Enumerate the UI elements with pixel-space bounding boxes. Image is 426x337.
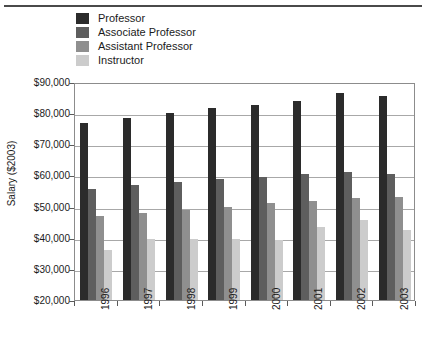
x-axis-tick-mark (245, 301, 246, 306)
legend-label: Assistant Professor (98, 41, 193, 52)
bar (208, 108, 216, 300)
x-axis-tick-label: 1999 (228, 288, 239, 310)
bar (131, 185, 139, 300)
x-axis-tick-mark (372, 301, 373, 306)
x-axis-tick-label: 2001 (313, 288, 324, 310)
y-axis-tick-label: $40,000 (10, 233, 70, 244)
x-axis-tick-mark (287, 301, 288, 306)
x-axis-tick-mark (202, 301, 203, 306)
bar (166, 113, 174, 300)
y-axis-tick-label: $30,000 (10, 264, 70, 275)
bar (251, 105, 259, 300)
y-axis-tick-label: $80,000 (10, 108, 70, 119)
legend-swatch-icon (76, 55, 89, 66)
x-axis-tick-label: 1997 (143, 288, 154, 310)
y-axis-tick-label: $50,000 (10, 202, 70, 213)
plot-area (74, 83, 415, 301)
bar (387, 174, 395, 300)
bar (224, 207, 232, 300)
y-axis-tick-label: $70,000 (10, 139, 70, 150)
bar (88, 189, 96, 300)
bar (352, 198, 360, 300)
x-axis-tick-mark (74, 301, 75, 306)
bar-group (373, 84, 416, 300)
x-axis-tick-label: 1996 (100, 288, 111, 310)
y-axis-tick-label: $90,000 (10, 77, 70, 88)
bar (259, 177, 267, 300)
bar (80, 123, 88, 301)
header-divider (4, 5, 422, 7)
bar (301, 174, 309, 300)
bar (174, 182, 182, 300)
legend-swatch-icon (76, 13, 89, 24)
bar (336, 93, 344, 300)
legend-item: Professor (76, 11, 316, 25)
legend-label: Professor (98, 13, 145, 24)
bar (182, 210, 190, 300)
bar (395, 197, 403, 300)
legend-label: Instructor (98, 55, 144, 66)
x-axis-tick-mark (159, 301, 160, 306)
legend-swatch-icon (76, 27, 89, 38)
bar-group (75, 84, 118, 300)
bar-group (331, 84, 374, 300)
bar (293, 101, 301, 300)
bar (267, 203, 275, 300)
bar-group (160, 84, 203, 300)
legend-item: Instructor (76, 53, 316, 67)
legend-item: Associate Professor (76, 25, 316, 39)
bar (123, 118, 131, 300)
x-axis-tick-mark (330, 301, 331, 306)
bar (216, 179, 224, 300)
legend-label: Associate Professor (98, 27, 196, 38)
bar-group (246, 84, 289, 300)
x-axis-tick-label: 2000 (271, 288, 282, 310)
bar (379, 96, 387, 300)
x-axis-tick-mark (415, 301, 416, 306)
bar-group (288, 84, 331, 300)
y-axis-tick-label: $60,000 (10, 170, 70, 181)
bar-group (203, 84, 246, 300)
x-axis-tick-mark (117, 301, 118, 306)
legend-swatch-icon (76, 41, 89, 52)
x-axis-tick-label: 1998 (186, 288, 197, 310)
bar (309, 201, 317, 300)
salary-bar-chart: ProfessorAssociate ProfessorAssistant Pr… (0, 0, 426, 337)
bar (344, 172, 352, 300)
x-axis-tick-label: 2003 (399, 288, 410, 310)
chart-legend: ProfessorAssociate ProfessorAssistant Pr… (76, 11, 316, 67)
legend-item: Assistant Professor (76, 39, 316, 53)
x-axis-tick-label: 2002 (356, 288, 367, 310)
y-axis-tick-label: $20,000 (10, 295, 70, 306)
bar-group (118, 84, 161, 300)
